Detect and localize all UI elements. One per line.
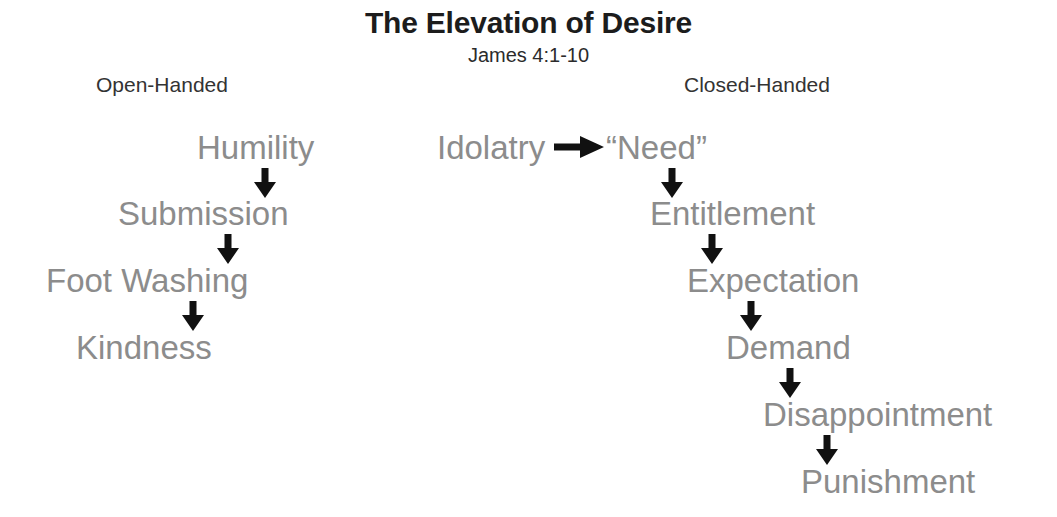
step-foot-washing: Foot Washing	[46, 264, 248, 297]
arrow-right-icon	[554, 134, 606, 160]
slide-canvas: The Elevation of Desire James 4:1-10 Ope…	[0, 0, 1057, 517]
step-humility: Humility	[197, 131, 314, 164]
page-title: The Elevation of Desire	[0, 6, 1057, 40]
step-submission: Submission	[118, 197, 289, 230]
page-subtitle: James 4:1-10	[0, 44, 1057, 67]
arrow-down-icon	[699, 234, 725, 264]
step-punishment: Punishment	[801, 465, 975, 498]
arrow-down-icon	[215, 234, 241, 264]
arrow-down-icon	[814, 435, 840, 465]
arrow-down-icon	[659, 168, 685, 198]
arrow-down-icon	[777, 368, 803, 398]
arrow-down-icon	[252, 168, 278, 198]
column-header-closed-handed: Closed-Handed	[684, 73, 830, 97]
step-disappointment: Disappointment	[763, 398, 992, 431]
step-demand: Demand	[726, 331, 851, 364]
column-header-open-handed: Open-Handed	[96, 73, 228, 97]
step-idolatry: Idolatry	[437, 131, 545, 164]
arrow-down-icon	[738, 301, 764, 331]
step-expectation: Expectation	[687, 264, 859, 297]
step-need: “Need”	[606, 131, 707, 164]
arrow-down-icon	[180, 301, 206, 331]
step-entitlement: Entitlement	[650, 197, 815, 230]
step-kindness: Kindness	[76, 331, 212, 364]
